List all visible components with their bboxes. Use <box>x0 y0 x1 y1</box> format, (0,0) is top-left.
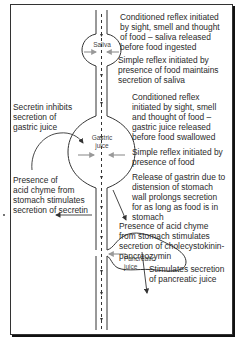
gastric-conditioned-reflex-text: Conditioned reflex initiated by sight, s… <box>132 92 216 142</box>
secretin-stimulation-text: Presence of acid chyme from stomach stim… <box>13 175 88 215</box>
saliva-label: Saliva <box>86 41 118 49</box>
cck-stimulation-text: Presence of acid chyme from stomach stim… <box>119 221 224 261</box>
saliva-conditioned-reflex-text: Conditioned reflex initiated by sight, s… <box>120 12 220 52</box>
secretin-inhibits-text: Secretin inhibits secretion of gastric j… <box>13 102 72 132</box>
chyme-to-duodenum-arrow-icon <box>113 190 126 220</box>
gastrin-release-text: Release of gastrin due to distension of … <box>132 172 225 222</box>
gastric-simple-reflex-text: Simple reflex initiated by presence of f… <box>132 147 223 167</box>
secretin-inhibit-arrow-icon <box>32 133 83 170</box>
gastric-juice-label: Gastric juice <box>80 134 124 150</box>
saliva-simple-reflex-text: Simple reflex initiated by presence of f… <box>118 55 219 85</box>
pancreatic-stimulation-text: Stimulates secretion of pancreatic juice <box>149 264 224 284</box>
